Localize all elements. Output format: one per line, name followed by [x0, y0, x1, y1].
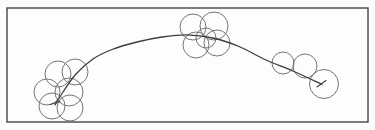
- figure-border: [7, 8, 368, 122]
- figure-canvas: [0, 0, 375, 130]
- bubble-curve-figure: [0, 0, 375, 130]
